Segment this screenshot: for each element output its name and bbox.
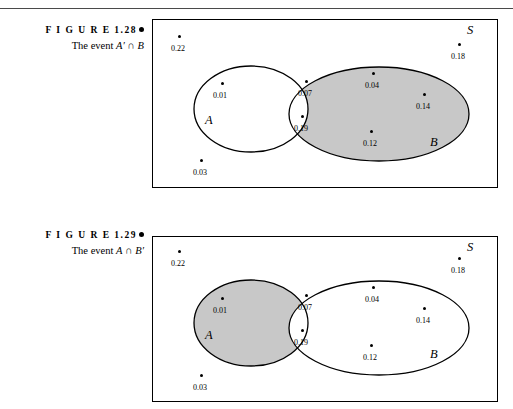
set-a-label-1-28: A <box>205 113 213 128</box>
universe-label-1-28: S <box>467 23 473 38</box>
set-b-label-1-29: B <box>430 347 438 362</box>
point-value-label: 0.18 <box>451 266 465 275</box>
point-value-label: 0.03 <box>193 168 207 177</box>
venn-diagram-1-28: S A B 0.22 0.18 0.03 0.01 0.07 0.19 0.04… <box>152 19 498 188</box>
point-value-label: 0.18 <box>451 52 465 61</box>
point-value-label: 0.12 <box>363 139 377 148</box>
figure-bullet-icon-1-29 <box>139 232 144 237</box>
figure-caption-1-29: F I G U R E 1.29 The event A ∩ B′ <box>12 229 144 257</box>
point-value-label: 0.19 <box>294 338 308 347</box>
figure-desc-set-a-1-28: A′ <box>116 40 125 51</box>
figure-bullet-icon-1-28 <box>139 27 144 32</box>
point-value-label: 0.12 <box>363 353 377 362</box>
point-value-label: 0.07 <box>298 89 312 98</box>
point-value-label: 0.01 <box>213 306 227 315</box>
universe-label-1-29: S <box>467 240 473 255</box>
point-value-label: 0.04 <box>365 295 379 304</box>
figure-number-text-1-28: F I G U R E 1.28 <box>46 25 137 35</box>
figure-number-label-1-29: F I G U R E 1.29 <box>12 229 144 242</box>
point-value-label: 0.14 <box>416 102 430 111</box>
figure-desc-set-b-1-28: B <box>138 40 144 51</box>
figure-description-1-28: The event A′ ∩ B <box>12 39 144 53</box>
figure-desc-set-b-1-29: B′ <box>135 245 144 256</box>
figure-desc-operator-1-28: ∩ <box>125 40 138 51</box>
point-value-label: 0.19 <box>294 124 308 133</box>
set-a-label-1-29: A <box>205 328 213 343</box>
shaded-region-b-minus-a <box>153 20 497 187</box>
set-b-label-1-28: B <box>430 135 438 150</box>
shaded-region-a-minus-b <box>153 237 497 401</box>
point-value-label: 0.14 <box>416 316 430 325</box>
figure-desc-operator-1-29: ∩ <box>122 245 135 256</box>
point-value-label: 0.22 <box>171 44 185 53</box>
figure-caption-1-28: F I G U R E 1.28 The event A′ ∩ B <box>12 24 144 52</box>
figure-desc-prefix-1-28: The event <box>72 40 116 51</box>
point-value-label: 0.04 <box>365 81 379 90</box>
figure-number-label-1-28: F I G U R E 1.28 <box>12 24 144 37</box>
venn-svg-1-28 <box>153 20 497 187</box>
figure-number-text-1-29: F I G U R E 1.29 <box>46 230 137 240</box>
point-value-label: 0.01 <box>213 91 227 100</box>
point-value-label: 0.07 <box>298 303 312 312</box>
figure-desc-prefix-1-29: The event <box>72 245 116 256</box>
venn-diagram-1-29: S A B 0.22 0.18 0.03 0.01 0.07 0.19 0.04… <box>152 236 498 402</box>
venn-svg-1-29 <box>153 237 497 401</box>
figure-description-1-29: The event A ∩ B′ <box>12 244 144 258</box>
page-top-rule <box>0 8 513 9</box>
point-value-label: 0.03 <box>193 383 207 392</box>
point-value-label: 0.22 <box>171 259 185 268</box>
